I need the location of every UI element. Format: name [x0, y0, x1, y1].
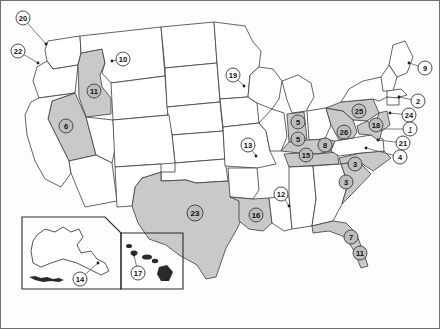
alaska-shape[interactable] [31, 227, 109, 275]
marker-21[interactable]: 21 [396, 136, 411, 151]
map-figure: 2022101161913922412142518265515833122316… [0, 0, 440, 329]
marker-23[interactable]: 23 [187, 205, 204, 222]
state-north-dakota[interactable] [161, 22, 217, 68]
marker-11-idaho[interactable]: 11 [87, 84, 102, 99]
map-stage: 2022101161913922412142518265515833122316… [1, 1, 440, 329]
state-florida[interactable] [312, 221, 368, 268]
site-dot [288, 205, 291, 208]
marker-5-kentucky[interactable]: 5 [291, 132, 306, 147]
site-dot [398, 96, 401, 99]
marker-24[interactable]: 24 [402, 108, 417, 123]
marker-16[interactable]: 16 [249, 208, 264, 223]
state-texas[interactable] [132, 172, 244, 279]
marker-19[interactable]: 19 [226, 68, 241, 83]
marker-3-nc[interactable]: 3 [348, 157, 363, 172]
marker-12[interactable]: 12 [274, 187, 289, 202]
marker-20[interactable]: 20 [16, 11, 31, 26]
marker-2[interactable]: 2 [411, 94, 426, 109]
site-dot [45, 43, 48, 46]
site-dot [111, 60, 114, 63]
marker-5-indiana[interactable]: 5 [291, 115, 306, 130]
site-dot [255, 155, 258, 158]
state-nebraska[interactable] [167, 102, 223, 135]
site-dot [377, 139, 380, 142]
site-dot [389, 112, 392, 115]
marker-6[interactable]: 6 [59, 119, 74, 134]
marker-13[interactable]: 13 [241, 138, 256, 153]
marker-11-florida[interactable]: 11 [353, 246, 368, 261]
state-south-dakota[interactable] [165, 63, 220, 107]
state-arizona[interactable] [69, 155, 117, 207]
marker-14[interactable]: 14 [73, 272, 88, 287]
site-dot [365, 147, 368, 150]
marker-8[interactable]: 8 [318, 138, 333, 153]
site-dot [37, 62, 40, 65]
marker-25[interactable]: 25 [352, 104, 367, 119]
state-iowa[interactable] [220, 97, 259, 127]
us-map-svg [1, 1, 440, 329]
marker-18[interactable]: 18 [369, 118, 384, 133]
marker-22[interactable]: 22 [11, 44, 26, 59]
marker-7[interactable]: 7 [344, 230, 359, 245]
state-kansas[interactable] [172, 131, 225, 163]
state-georgia[interactable] [312, 164, 348, 226]
state-alabama[interactable] [289, 166, 316, 229]
state-colorado[interactable] [113, 115, 175, 167]
marker-4[interactable]: 4 [393, 150, 408, 165]
site-dot [97, 262, 100, 265]
marker-1[interactable]: 1 [403, 122, 418, 137]
marker-17[interactable]: 17 [131, 266, 146, 281]
alaska-aleutians [29, 276, 64, 282]
site-dot [133, 254, 136, 257]
marker-10[interactable]: 10 [116, 52, 131, 67]
marker-26[interactable]: 26 [337, 125, 352, 140]
state-washington[interactable] [45, 36, 81, 69]
site-dot [408, 62, 411, 65]
marker-3-sc[interactable]: 3 [339, 175, 354, 190]
marker-9[interactable]: 9 [418, 61, 433, 76]
state-arkansas[interactable] [228, 168, 259, 199]
state-michigan[interactable] [282, 75, 314, 113]
state-wyoming[interactable] [111, 76, 168, 120]
state-connecticut-rhodeisland[interactable] [387, 97, 399, 105]
marker-15[interactable]: 15 [299, 148, 314, 163]
site-dot [243, 85, 246, 88]
